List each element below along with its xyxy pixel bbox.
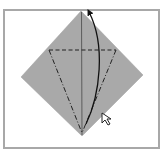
- origami-diagram: [0, 0, 162, 157]
- center-crease-line: [82, 12, 83, 135]
- cursor-arrow-icon: [102, 113, 111, 125]
